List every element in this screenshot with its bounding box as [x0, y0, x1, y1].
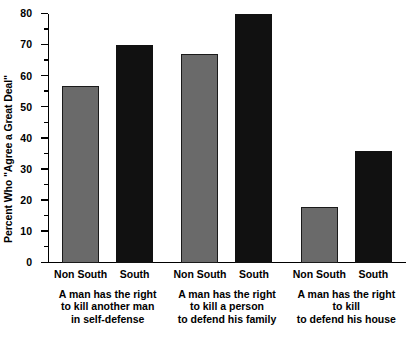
bar-gap — [99, 262, 116, 263]
y-tick-major: 60 — [41, 75, 48, 76]
bar-non-south — [301, 207, 338, 263]
y-tick-label: 0 — [26, 256, 32, 268]
caption-slot: A man has the rightto kill another manin… — [48, 288, 167, 334]
series-label: South — [227, 268, 281, 280]
series-label: Non South — [54, 268, 108, 280]
series-tick-labels: Non SouthSouthNon SouthSouthNon SouthSou… — [48, 268, 406, 282]
group-caption-line: to defend his house — [297, 313, 396, 325]
bar-non-south — [62, 86, 99, 263]
group-caption-line: A man has the right — [59, 288, 157, 300]
bar-group — [48, 14, 167, 263]
y-tick-major: 70 — [41, 44, 48, 45]
bar-south — [355, 151, 392, 263]
group-caption: A man has the rightto killto defend his … — [297, 288, 396, 334]
group-caption-line: to defend his family — [178, 313, 277, 325]
y-tick-major: 40 — [41, 137, 48, 138]
group-caption: A man has the rightto kill another manin… — [59, 288, 157, 334]
y-tick-major: 50 — [41, 106, 48, 107]
bar-south — [116, 45, 153, 263]
bar-gap — [338, 262, 355, 263]
y-tick-label: 60 — [20, 70, 32, 82]
series-label-slot: Non SouthSouth — [167, 268, 286, 282]
y-tick-label: 20 — [20, 194, 32, 206]
y-tick-label: 80 — [20, 7, 32, 19]
group-caption-line: A man has the right — [178, 288, 277, 300]
bar-groups — [48, 14, 406, 263]
series-label: South — [108, 268, 162, 280]
series-label: South — [346, 268, 400, 280]
group-caption-line: to kill a person — [178, 300, 277, 312]
group-caption-line: to kill — [297, 300, 396, 312]
bar-south — [235, 14, 272, 263]
y-tick-label: 10 — [20, 225, 32, 237]
bar-chart: Percent Who "Agree a Great Deal" 0102030… — [0, 0, 419, 338]
bar-group — [167, 14, 286, 263]
series-label-slot: Non SouthSouth — [287, 268, 406, 282]
series-label: Non South — [292, 268, 346, 280]
group-captions: A man has the rightto kill another manin… — [48, 288, 406, 334]
group-caption-line: in self-defense — [59, 313, 157, 325]
group-caption: A man has the rightto kill a personto de… — [178, 288, 277, 334]
y-tick-label: 70 — [20, 38, 32, 50]
y-tick-major: 0 — [41, 262, 48, 263]
group-caption-line: to kill another man — [59, 300, 157, 312]
y-tick-major: 20 — [41, 199, 48, 200]
bar-gap — [218, 262, 235, 263]
series-label-slot: Non SouthSouth — [48, 268, 167, 282]
group-caption-line: A man has the right — [297, 288, 396, 300]
series-label: Non South — [173, 268, 227, 280]
y-tick-major: 10 — [41, 230, 48, 231]
y-tick-label: 30 — [20, 163, 32, 175]
y-tick-major: 80 — [41, 13, 48, 14]
bar-group — [287, 14, 406, 263]
plot-area: 01020304050607080 — [48, 14, 406, 263]
caption-slot: A man has the rightto kill a personto de… — [167, 288, 286, 334]
y-tick-label: 40 — [20, 132, 32, 144]
y-tick-label: 50 — [20, 101, 32, 113]
y-axis-title: Percent Who "Agree a Great Deal" — [0, 24, 16, 294]
bar-non-south — [181, 54, 218, 263]
y-tick-major: 30 — [41, 168, 48, 169]
caption-slot: A man has the rightto killto defend his … — [287, 288, 406, 334]
